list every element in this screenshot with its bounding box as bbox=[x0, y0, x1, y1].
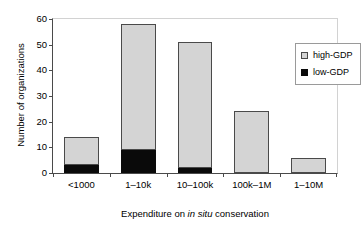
bar-group-3 bbox=[234, 111, 269, 173]
x-tick-label-2: 10–100k bbox=[177, 180, 213, 190]
x-tick-mark bbox=[110, 173, 111, 177]
x-tick-mark bbox=[280, 173, 281, 177]
y-tick-label: 10 bbox=[36, 143, 47, 153]
y-tick-mark bbox=[49, 122, 53, 123]
x-tick-label-4: 1–10M bbox=[294, 180, 323, 190]
y-tick-label: 60 bbox=[36, 14, 47, 24]
x-tick-label-1: 1–10k bbox=[125, 180, 151, 190]
y-tick-label: 50 bbox=[36, 40, 47, 50]
bar-segment-low-gdp bbox=[178, 168, 213, 173]
legend-label-high-gdp: high-GDP bbox=[313, 51, 353, 60]
y-tick-mark bbox=[49, 96, 53, 97]
x-tick-label-0: <1000 bbox=[68, 180, 95, 190]
bar-segment-high-gdp bbox=[234, 111, 269, 173]
bar-segment-high-gdp bbox=[64, 137, 99, 165]
y-tick-label: 20 bbox=[36, 117, 47, 127]
legend-item-high-gdp: high-GDP bbox=[301, 49, 353, 62]
legend-label-low-gdp: low-GDP bbox=[313, 68, 349, 77]
x-axis-title-part-3: conservation bbox=[212, 208, 269, 219]
legend-item-low-gdp: low-GDP bbox=[301, 66, 353, 79]
y-tick-mark bbox=[49, 19, 53, 20]
legend: high-GDP low-GDP bbox=[295, 43, 361, 85]
plot-area: 0102030405060 <10001–10k10–100k100k–1M1–… bbox=[52, 18, 338, 174]
legend-swatch-low-gdp-icon bbox=[301, 69, 308, 76]
y-tick-label: 40 bbox=[36, 66, 47, 76]
bar-group-2 bbox=[178, 42, 213, 173]
y-tick-mark bbox=[49, 147, 53, 148]
x-axis-title-part-italic: in situ bbox=[188, 208, 213, 219]
y-tick-label: 30 bbox=[36, 91, 47, 101]
bar-segment-low-gdp bbox=[64, 165, 99, 173]
bar-segment-high-gdp bbox=[178, 42, 213, 168]
x-tick-mark bbox=[167, 173, 168, 177]
bar-segment-high-gdp bbox=[291, 158, 326, 173]
x-axis-title: Expenditure on in situ conservation bbox=[52, 208, 338, 219]
bar-group-4 bbox=[291, 158, 326, 173]
x-tick-mark bbox=[53, 173, 54, 177]
x-tick-mark bbox=[336, 173, 337, 177]
bar-group-0 bbox=[64, 137, 99, 173]
bar-segment-high-gdp bbox=[121, 24, 156, 150]
bar-group-1 bbox=[121, 24, 156, 173]
bar-segment-low-gdp bbox=[121, 150, 156, 173]
y-tick-label: 0 bbox=[42, 168, 47, 178]
legend-swatch-high-gdp-icon bbox=[301, 52, 308, 59]
y-tick-mark bbox=[49, 70, 53, 71]
y-tick-mark bbox=[49, 45, 53, 46]
x-axis-title-part-1: Expenditure on bbox=[121, 208, 188, 219]
x-tick-label-3: 100k–1M bbox=[232, 180, 271, 190]
y-axis-title: Number of organizations bbox=[14, 0, 28, 190]
x-tick-mark bbox=[223, 173, 224, 177]
